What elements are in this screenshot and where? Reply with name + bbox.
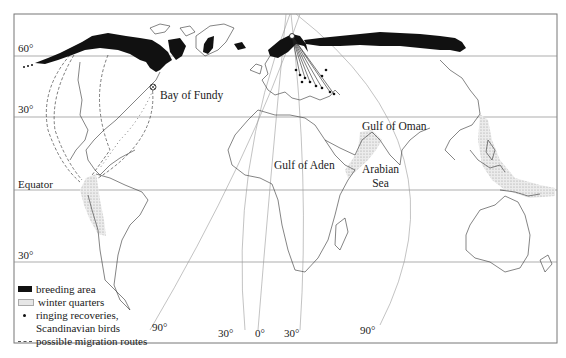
breeding-area-labrador — [168, 38, 186, 60]
legend-label-breeding: breeding area — [36, 283, 96, 295]
label-lat-30n: 30° — [18, 103, 33, 115]
legend-label-winter: winter quarters — [38, 296, 104, 308]
label-gulf-of-aden: Gulf of Aden — [274, 159, 335, 171]
breeding-area-iceland — [234, 42, 246, 50]
label-lon-90w: 90° — [152, 321, 167, 333]
legend-item-winter: winter quarters — [18, 296, 147, 308]
winter-quarters-southeast-asia — [478, 114, 555, 198]
breeding-area-north-america — [35, 33, 172, 72]
winter-swatch-icon — [18, 299, 34, 306]
legend-label-ringing-2: Scandinavian birds — [36, 322, 120, 334]
winter-quarters-south-america — [80, 174, 106, 236]
dashed-line-icon — [18, 341, 32, 342]
breeding-dots-alaska — [23, 64, 33, 68]
dot-marker-icon — [18, 312, 32, 318]
label-lon-0: 0° — [255, 327, 265, 339]
legend-item-breeding: breeding area — [18, 283, 147, 295]
label-lat-30s: 30° — [18, 249, 33, 261]
label-bay-of-fundy: Bay of Fundy — [160, 89, 223, 101]
legend-item-ringing: ringing recoveries, — [18, 309, 147, 321]
ringing-recovery-dots — [295, 69, 336, 96]
label-sea: Sea — [362, 176, 399, 190]
label-arabian-sea: Arabian Sea — [362, 162, 399, 190]
legend-item-routes: possible migration routes — [18, 335, 147, 347]
label-arabian: Arabian — [362, 162, 399, 176]
legend-label-ringing: ringing recoveries, — [36, 309, 118, 321]
migration-routes — [46, 55, 153, 182]
label-lon-30w: 30° — [218, 327, 233, 339]
breeding-area-greenland — [203, 36, 214, 54]
label-lat-60n: 60° — [18, 42, 33, 54]
label-lon-30e: 30° — [284, 327, 299, 339]
origin-marker-scandinavia — [290, 34, 295, 39]
label-lon-90e: 90° — [360, 324, 375, 336]
label-equator: Equator — [18, 178, 53, 190]
legend-label-routes: possible migration routes — [36, 335, 147, 347]
label-gulf-of-oman: Gulf of Oman — [362, 120, 427, 132]
map-legend: breeding area winter quarters ringing re… — [18, 283, 147, 348]
legend-item-ringing-cont: Scandinavian birds — [18, 322, 147, 334]
breeding-swatch-icon — [18, 286, 32, 292]
route-fundy-south — [100, 90, 153, 168]
